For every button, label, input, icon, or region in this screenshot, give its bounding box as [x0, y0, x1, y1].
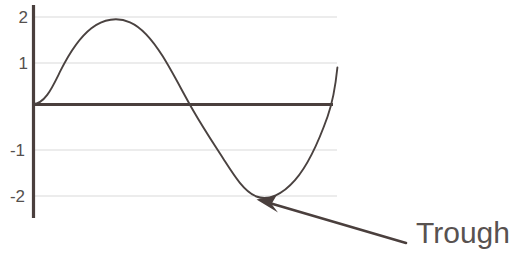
sine-wave-figure: 2 1 -1 -2 Trough — [0, 0, 515, 261]
sine-curve — [33, 19, 337, 198]
trough-arrow — [257, 196, 407, 244]
y-tick-label-minus-1: -1 — [1, 142, 25, 159]
trough-annotation-label: Trough — [416, 218, 510, 248]
arrow-shaft — [266, 202, 406, 243]
y-tick-label-2: 2 — [4, 9, 28, 26]
gridlines — [33, 17, 337, 196]
y-tick-label-minus-2: -2 — [1, 188, 25, 205]
y-tick-label-1: 1 — [4, 55, 28, 72]
